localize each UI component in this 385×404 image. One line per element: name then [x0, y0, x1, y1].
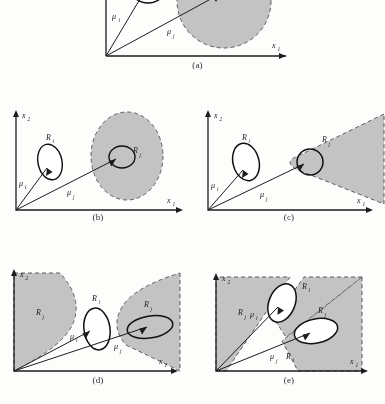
y-axis-arrowhead-b [13, 110, 19, 117]
x-axis-arrowhead-e [361, 368, 368, 374]
svg-text:j: j [172, 33, 175, 39]
svg-text:2: 2 [26, 275, 29, 281]
figure-multipanel-decision-regions: μ i μ j x 1 (a) [0, 0, 385, 404]
panel-d: R j R i R j μ i μ j x 2 [2, 245, 194, 393]
svg-text:μ: μ [113, 342, 118, 351]
vector-mu-i-c [208, 170, 243, 210]
svg-text:R: R [241, 133, 247, 142]
label-mu-j-b: μ j [66, 188, 75, 200]
svg-text:i: i [53, 138, 55, 144]
svg-text:2: 2 [28, 116, 31, 122]
vector-mu-i-a [106, 0, 146, 56]
label-y-axis-b: x 2 [21, 111, 31, 122]
svg-text:R: R [91, 294, 97, 303]
svg-text:R: R [132, 146, 138, 155]
svg-text:R: R [301, 282, 307, 291]
svg-text:j: j [275, 358, 278, 364]
svg-text:x: x [166, 196, 171, 205]
svg-text:x: x [21, 111, 26, 120]
svg-text:μ: μ [69, 332, 74, 341]
svg-text:j: j [119, 348, 122, 354]
caption-b: (b) [2, 212, 194, 222]
region-j-shape-b [91, 112, 163, 200]
region-i-shape-d [81, 306, 113, 351]
svg-text:R: R [45, 133, 51, 142]
svg-text:R: R [35, 308, 41, 317]
svg-text:μ: μ [166, 27, 171, 36]
svg-text:1: 1 [278, 46, 281, 52]
svg-text:x: x [19, 270, 24, 279]
svg-text:x: x [221, 274, 226, 283]
svg-text:1: 1 [356, 362, 359, 368]
label-mu-j-e: μ j [269, 352, 278, 364]
svg-text:R: R [317, 306, 323, 315]
svg-text:x: x [213, 111, 218, 120]
svg-text:2: 2 [220, 116, 223, 122]
label-mu-i-b: μ i [18, 179, 27, 190]
y-axis-arrowhead-c [205, 110, 211, 117]
label-mu-j-d: μ j [113, 342, 122, 354]
label-x-axis-c: x 1 [356, 196, 366, 207]
panel-c: R i R j μ i μ j x 2 x 1 (c [194, 100, 384, 228]
label-x-axis-b: x 1 [166, 196, 176, 207]
svg-text:R: R [237, 308, 243, 317]
caption-d: (d) [2, 375, 194, 385]
region-j-right-shape-d [117, 273, 180, 371]
svg-text:R: R [321, 135, 327, 144]
panel-a: μ i μ j x 1 (a) [90, 0, 305, 74]
panel-e: R i R j μ i R j μ j R i [194, 245, 384, 393]
label-mu-i-c: μ i [210, 181, 219, 192]
svg-text:x: x [349, 357, 354, 366]
region-j-shape-c [290, 114, 384, 204]
svg-text:1: 1 [173, 201, 176, 207]
caption-e: (e) [194, 375, 384, 385]
svg-text:μ: μ [66, 188, 71, 197]
label-region-i-c: R i [241, 133, 251, 144]
svg-text:i: i [119, 17, 121, 23]
vector-mu-i-b [16, 168, 47, 210]
label-x-axis-a: x 1 [271, 41, 281, 52]
svg-text:i: i [249, 138, 251, 144]
label-mu-j-c: μ j [259, 190, 268, 202]
svg-text:i: i [217, 186, 219, 192]
region-i-shape-b [35, 142, 66, 182]
svg-text:R: R [143, 300, 149, 309]
label-region-i-b: R i [45, 133, 55, 144]
label-mu-j-a: μ j [166, 27, 175, 39]
region-j-shape-a [177, 0, 271, 48]
region-i-shape-a [128, 0, 168, 3]
svg-text:1: 1 [363, 201, 366, 207]
svg-text:μ: μ [249, 310, 254, 319]
y-axis-arrowhead-e [213, 273, 219, 280]
caption-a: (a) [90, 60, 305, 70]
svg-text:j: j [265, 196, 268, 202]
svg-text:2: 2 [228, 279, 231, 285]
svg-text:μ: μ [210, 181, 215, 190]
svg-text:x: x [356, 196, 361, 205]
svg-text:1: 1 [165, 362, 168, 368]
svg-text:x: x [271, 41, 276, 50]
caption-c: (c) [194, 212, 384, 222]
svg-text:x: x [158, 357, 163, 366]
svg-text:μ: μ [269, 352, 274, 361]
svg-text:i: i [99, 299, 101, 305]
label-mu-i-a: μ i [111, 12, 121, 23]
svg-text:j: j [72, 194, 75, 200]
region-j-left-shape-d [14, 273, 76, 371]
svg-text:i: i [25, 184, 27, 190]
svg-text:μ: μ [259, 190, 264, 199]
svg-text:μ: μ [111, 12, 116, 21]
panel-b: R i R j μ i μ j x 2 x 1 (b [2, 100, 194, 228]
svg-text:R: R [285, 352, 291, 361]
svg-text:μ: μ [18, 179, 23, 188]
label-y-axis-c: x 2 [213, 111, 223, 122]
label-region-i-d: R i [91, 294, 101, 305]
region-i-shape-c [229, 140, 263, 183]
x-axis-arrowhead-a [279, 53, 286, 59]
